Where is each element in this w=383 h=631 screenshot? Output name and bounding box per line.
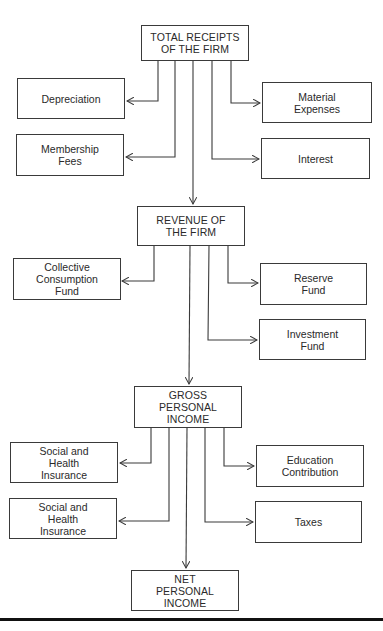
node-label: Reserve Fund bbox=[294, 272, 333, 296]
node-label: TOTAL RECEIPTS OF THE FIRM bbox=[150, 31, 239, 55]
edge-gross-to-net bbox=[186, 428, 187, 568]
node-investment-fund: Investment Fund bbox=[259, 319, 366, 360]
node-label: GROSS PERSONAL INCOME bbox=[159, 389, 217, 425]
edge-total-to-material bbox=[231, 60, 260, 103]
node-revenue: REVENUE OF THE FIRM bbox=[137, 206, 245, 246]
edge-total-to-interest bbox=[212, 60, 259, 159]
node-depreciation: Depreciation bbox=[17, 78, 125, 119]
node-social-health-insurance-1: Social and Health Insurance bbox=[10, 442, 118, 483]
edge-gross-to-education bbox=[224, 428, 254, 466]
node-gross-personal-income: GROSS PERSONAL INCOME bbox=[134, 386, 242, 428]
edge-gross-to-social2 bbox=[119, 428, 169, 521]
node-label: NET PERSONAL INCOME bbox=[156, 573, 214, 609]
edge-revenue-to-investment bbox=[208, 246, 257, 340]
node-net-personal-income: NET PERSONAL INCOME bbox=[131, 570, 239, 611]
node-reserve-fund: Reserve Fund bbox=[260, 263, 367, 305]
edge-revenue-to-reserve bbox=[228, 246, 258, 283]
node-label: Social and Health Insurance bbox=[39, 445, 88, 481]
node-education-contribution: Education Contribution bbox=[256, 445, 364, 487]
node-collective-consumption-fund: Collective Consumption Fund bbox=[13, 258, 121, 300]
node-material-expenses: Material Expenses bbox=[262, 82, 372, 123]
node-label: Social and Health Insurance bbox=[38, 501, 87, 537]
node-label: Investment Fund bbox=[287, 328, 338, 352]
node-label: Material Expenses bbox=[294, 91, 340, 115]
node-label: Depreciation bbox=[42, 93, 101, 105]
bottom-rule-divider bbox=[0, 618, 383, 621]
node-label: Membership Fees bbox=[41, 143, 99, 167]
node-total-receipts: TOTAL RECEIPTS OF THE FIRM bbox=[141, 25, 249, 61]
node-label: Education Contribution bbox=[282, 454, 339, 478]
node-taxes: Taxes bbox=[255, 501, 362, 543]
node-label: Interest bbox=[298, 153, 333, 165]
edge-revenue-to-collective bbox=[122, 246, 154, 281]
edge-total-to-membership bbox=[126, 60, 175, 157]
node-interest: Interest bbox=[261, 138, 370, 179]
edge-gross-to-taxes bbox=[205, 428, 253, 522]
node-label: Taxes bbox=[295, 516, 322, 528]
flowchart-canvas: TOTAL RECEIPTS OF THE FIRM Depreciation … bbox=[0, 0, 383, 631]
node-membership-fees: Membership Fees bbox=[16, 134, 124, 176]
edge-total-to-depreciation bbox=[127, 60, 158, 101]
edge-gross-to-social1 bbox=[120, 428, 151, 463]
edge-revenue-to-gross bbox=[189, 246, 190, 384]
node-social-health-insurance-2: Social and Health Insurance bbox=[9, 498, 117, 539]
node-label: REVENUE OF THE FIRM bbox=[156, 214, 225, 238]
node-label: Collective Consumption Fund bbox=[36, 261, 98, 297]
